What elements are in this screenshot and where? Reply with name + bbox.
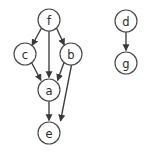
node-f-circle[interactable] xyxy=(38,9,60,31)
directed-graph-svg: f c b a e d xyxy=(0,0,151,154)
graph-canvas: f c b a e d xyxy=(0,0,151,154)
edge-c-to-a xyxy=(32,63,42,81)
node-layer: f c b a e d xyxy=(14,9,137,144)
edge-f-to-c xyxy=(32,28,42,46)
node-c-circle[interactable] xyxy=(14,43,36,65)
node-d[interactable]: d xyxy=(115,10,137,32)
edge-b-to-e xyxy=(61,65,72,121)
node-b[interactable]: b xyxy=(60,43,82,65)
edge-layer xyxy=(32,28,127,121)
node-f[interactable]: f xyxy=(38,9,60,31)
node-b-circle[interactable] xyxy=(60,43,82,65)
node-a-circle[interactable] xyxy=(38,79,60,101)
node-g-circle[interactable] xyxy=(115,52,137,74)
edge-f-to-b xyxy=(57,28,65,45)
node-e[interactable]: e xyxy=(38,122,60,144)
edge-b-to-a xyxy=(58,63,65,81)
node-e-circle[interactable] xyxy=(38,122,60,144)
node-d-circle[interactable] xyxy=(115,10,137,32)
node-a[interactable]: a xyxy=(38,79,60,101)
node-c[interactable]: c xyxy=(14,43,36,65)
node-g[interactable]: g xyxy=(115,52,137,74)
